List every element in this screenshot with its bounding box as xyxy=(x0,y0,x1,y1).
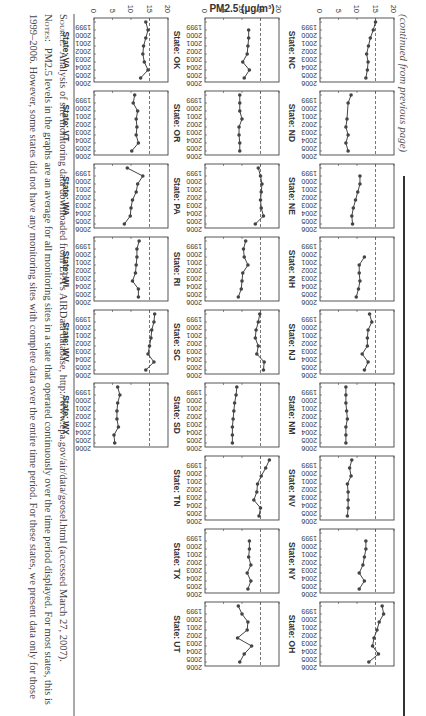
x-tick-label: 1999 xyxy=(186,97,202,104)
state-panel-nm: 19992000200120022003200420052006State: N… xyxy=(287,383,394,452)
x-tick-label: 2000 xyxy=(301,32,317,39)
data-point xyxy=(152,320,156,324)
data-point xyxy=(247,36,251,40)
data-point xyxy=(346,506,350,510)
state-label: State: OK xyxy=(172,31,182,71)
x-tick-label: 2005 xyxy=(301,218,317,225)
data-point xyxy=(129,206,133,210)
data-point xyxy=(133,93,137,97)
x-tick-label: 1999 xyxy=(186,24,202,31)
x-tick-label: 2006 xyxy=(75,372,91,379)
x-tick-label: 2000 xyxy=(301,178,317,185)
data-point xyxy=(231,441,235,445)
panel-frame xyxy=(320,91,394,155)
data-point xyxy=(354,295,358,299)
continued-note: (continued from previous page) xyxy=(397,14,410,153)
data-point xyxy=(237,295,241,299)
x-tick-label: 2003 xyxy=(301,129,317,136)
panel-frame xyxy=(320,237,394,301)
x-tick-label: 2001 xyxy=(301,186,317,193)
x-tick-label: 1999 xyxy=(301,243,317,250)
x-tick-label: 2003 xyxy=(75,348,91,355)
data-point xyxy=(134,271,138,275)
x-tick-label: 2004 xyxy=(186,283,202,290)
state-panel-ri: 19992000200120022003200420052006State: R… xyxy=(172,237,279,306)
data-point xyxy=(235,385,239,389)
x-tick-label: 2001 xyxy=(75,332,91,339)
x-tick-label: 1999 xyxy=(186,608,202,615)
x-tick-label: 2005 xyxy=(186,364,202,371)
data-point xyxy=(249,563,253,567)
y-tick-label: 0 xyxy=(89,9,98,13)
footer-notes: Source: Analysis of site monitoring data… xyxy=(28,14,69,705)
y-tick-label: 0 xyxy=(200,9,209,13)
data-point xyxy=(242,76,246,80)
data-point xyxy=(256,482,260,486)
data-point xyxy=(364,547,368,551)
panel-frame xyxy=(205,237,279,301)
x-tick-label: 2000 xyxy=(75,397,91,404)
data-point xyxy=(238,660,242,664)
data-point xyxy=(244,239,248,243)
data-point xyxy=(382,612,386,616)
x-tick-label: 2002 xyxy=(301,486,317,493)
data-point xyxy=(241,60,245,64)
x-tick-label: 2001 xyxy=(186,332,202,339)
panel-frame xyxy=(94,237,168,301)
data-point xyxy=(245,628,249,632)
data-point xyxy=(371,644,375,648)
x-tick-label: 2005 xyxy=(186,583,202,590)
x-tick-label: 2004 xyxy=(75,356,91,363)
x-tick-label: 2006 xyxy=(301,226,317,233)
data-point xyxy=(248,547,252,551)
x-tick-label: 2006 xyxy=(186,591,202,598)
data-point xyxy=(344,433,348,437)
data-point xyxy=(231,417,235,421)
state-label: State: OR xyxy=(172,104,182,143)
state-panel-nh: 19992000200120022003200420052006State: N… xyxy=(287,237,394,306)
x-tick-label: 2000 xyxy=(186,178,202,185)
data-point xyxy=(247,28,251,32)
y-tick-label: 10 xyxy=(126,5,135,13)
x-tick-label: 2002 xyxy=(75,48,91,55)
data-point xyxy=(366,336,370,340)
data-point xyxy=(240,117,244,121)
x-tick-label: 2003 xyxy=(186,56,202,63)
x-tick-label: 2000 xyxy=(186,616,202,623)
data-point xyxy=(357,271,361,275)
data-point xyxy=(344,385,348,389)
data-point xyxy=(149,336,153,340)
data-point xyxy=(238,93,242,97)
x-tick-label: 2005 xyxy=(186,510,202,517)
x-tick-label: 2001 xyxy=(186,551,202,558)
figure-svg: (continued from previous page) 199920002… xyxy=(0,0,426,716)
x-tick-label: 2003 xyxy=(186,348,202,355)
state-panel-ne: 19992000200120022003200420052006State: N… xyxy=(287,164,394,233)
x-tick-label: 2000 xyxy=(186,397,202,404)
x-tick-label: 2003 xyxy=(301,275,317,282)
x-tick-label: 2001 xyxy=(186,40,202,47)
x-tick-label: 2006 xyxy=(301,445,317,452)
state-label: State: RI xyxy=(172,252,182,286)
x-tick-label: 2000 xyxy=(186,324,202,331)
data-point xyxy=(349,474,353,478)
data-point xyxy=(361,563,365,567)
x-tick-label: 1999 xyxy=(301,462,317,469)
x-tick-label: 2003 xyxy=(75,129,91,136)
data-point xyxy=(241,271,245,275)
data-point xyxy=(123,222,127,226)
x-tick-label: 2002 xyxy=(301,267,317,274)
data-point xyxy=(152,360,156,364)
data-point xyxy=(372,636,376,640)
x-tick-label: 2004 xyxy=(75,429,91,436)
x-tick-label: 2002 xyxy=(186,486,202,493)
data-point xyxy=(346,482,350,486)
x-tick-label: 2006 xyxy=(301,299,317,306)
data-point xyxy=(142,44,146,48)
x-tick-label: 2006 xyxy=(75,80,91,87)
x-tick-label: 2001 xyxy=(301,551,317,558)
data-point xyxy=(262,368,266,372)
source-text: Analysis of site monitoring data downloa… xyxy=(57,52,69,662)
x-tick-label: 2004 xyxy=(186,429,202,436)
x-tick-label: 2002 xyxy=(301,121,317,128)
